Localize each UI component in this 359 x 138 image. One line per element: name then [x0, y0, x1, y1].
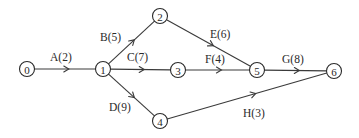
node-label: 3 — [175, 65, 181, 77]
node-4: 4 — [153, 114, 168, 129]
network-diagram: A(2)B(5)C(7)D(9)E(6)F(4)G(8)H(3) 0123456 — [0, 0, 359, 138]
node-0: 0 — [20, 62, 35, 77]
node-label: 4 — [157, 116, 163, 128]
edge-label-E: E(6) — [210, 28, 231, 41]
edge-H: H(3) — [167, 73, 327, 120]
edge-label-B: B(5) — [100, 31, 121, 44]
edge-label-A: A(2) — [50, 51, 72, 64]
edge-F: F(4) — [186, 53, 250, 73]
node-label: 0 — [24, 64, 30, 76]
network-diagram-canvas: A(2)B(5)C(7)D(9)E(6)F(4)G(8)H(3) 0123456 — [0, 0, 359, 138]
node-2: 2 — [153, 9, 168, 24]
node-1: 1 — [96, 62, 111, 77]
edge-label-G: G(8) — [282, 53, 304, 66]
edge-label-D: D(9) — [109, 101, 131, 114]
edge-label-F: F(4) — [205, 53, 225, 66]
edge-G: G(8) — [264, 53, 326, 73]
edge-A: A(2) — [35, 51, 96, 72]
node-label: 5 — [254, 65, 260, 77]
node-label: 6 — [331, 66, 337, 78]
edge-label-H: H(3) — [243, 107, 265, 120]
node-label: 1 — [100, 64, 106, 76]
node-3: 3 — [171, 63, 186, 78]
edge-label-C: C(7) — [127, 51, 148, 64]
node-label: 2 — [157, 11, 163, 23]
edge-line-G — [264, 70, 326, 71]
edge-D: D(9) — [109, 74, 155, 116]
node-5: 5 — [250, 63, 265, 78]
node-6: 6 — [327, 64, 342, 79]
edge-line-C — [110, 69, 170, 70]
